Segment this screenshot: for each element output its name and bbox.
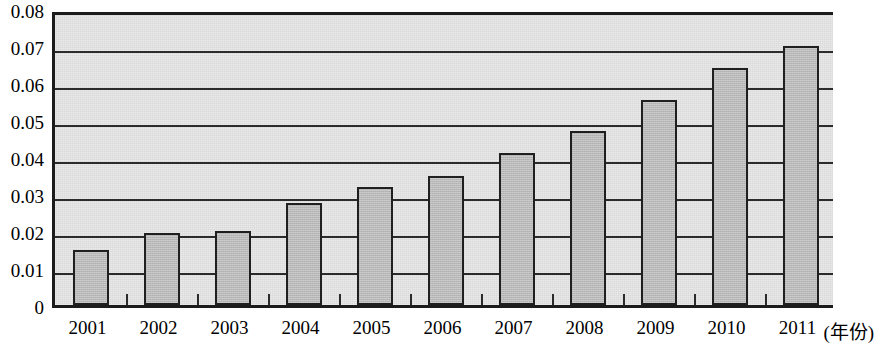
y-axis-tick-label: 0.04	[11, 149, 44, 171]
y-axis-tick-label: 0.02	[11, 223, 44, 245]
x-axis-tick-label: 2008	[566, 317, 604, 339]
y-axis-tick-label: 0.01	[11, 260, 44, 282]
x-axis-tick-label: 2006	[424, 317, 462, 339]
bar-column	[339, 15, 410, 305]
bar-column	[410, 15, 481, 305]
bar-grain-texture	[430, 178, 462, 304]
y-axis-tick-label: 0	[35, 297, 45, 319]
x-axis-tick-label: 2002	[140, 317, 178, 339]
x-axis-tick-labels: 2001200220032004200520062007200820092010…	[52, 311, 833, 342]
bar-grain-texture	[146, 235, 178, 303]
bar	[428, 176, 464, 306]
bar	[783, 46, 819, 305]
bar-column	[55, 15, 126, 305]
bar	[286, 203, 322, 305]
bar-grain-texture	[288, 205, 320, 303]
x-axis-tick-label: 2011	[779, 317, 816, 339]
bar-grain-texture	[217, 233, 249, 303]
bar-column	[197, 15, 268, 305]
x-axis-tick-label: 2009	[637, 317, 675, 339]
bar-column	[623, 15, 694, 305]
bar	[215, 231, 251, 305]
x-axis-tick-label: 2010	[708, 317, 746, 339]
bar-column	[552, 15, 623, 305]
y-axis-tick-label: 0.08	[11, 1, 44, 23]
bar-grain-texture	[359, 189, 391, 303]
bar-column	[126, 15, 197, 305]
bar	[641, 100, 677, 305]
bar	[144, 233, 180, 305]
bar	[570, 131, 606, 305]
bar-column	[268, 15, 339, 305]
y-axis-tick-label: 0.07	[11, 38, 44, 60]
bar-column	[481, 15, 552, 305]
x-axis-tick-label: 2003	[211, 317, 249, 339]
bar-grain-texture	[785, 48, 817, 303]
bar	[712, 68, 748, 305]
x-axis-unit-label: (年份)	[824, 317, 875, 344]
bar-grain-texture	[75, 252, 107, 304]
bar-grain-texture	[501, 155, 533, 303]
x-axis-tick-label: 2007	[495, 317, 533, 339]
bar	[73, 250, 109, 306]
bar	[499, 153, 535, 305]
y-axis-tick-label: 0.03	[11, 186, 44, 208]
bar-column	[765, 15, 836, 305]
plot-area	[52, 12, 833, 308]
x-axis-tick-label: 2004	[282, 317, 320, 339]
x-axis-tick-label: 2001	[69, 317, 107, 339]
bar	[357, 187, 393, 305]
y-axis-tick-label: 0.06	[11, 75, 44, 97]
bar-grain-texture	[572, 133, 604, 303]
y-axis-tick-label: 0.05	[11, 112, 44, 134]
bar-grain-texture	[714, 70, 746, 303]
bar-column	[694, 15, 765, 305]
bar-series	[55, 15, 833, 305]
x-axis-tick-label: 2005	[353, 317, 391, 339]
y-axis-tick-labels: 0.080.070.060.050.040.030.020.010	[0, 0, 48, 342]
bar-grain-texture	[643, 102, 675, 303]
